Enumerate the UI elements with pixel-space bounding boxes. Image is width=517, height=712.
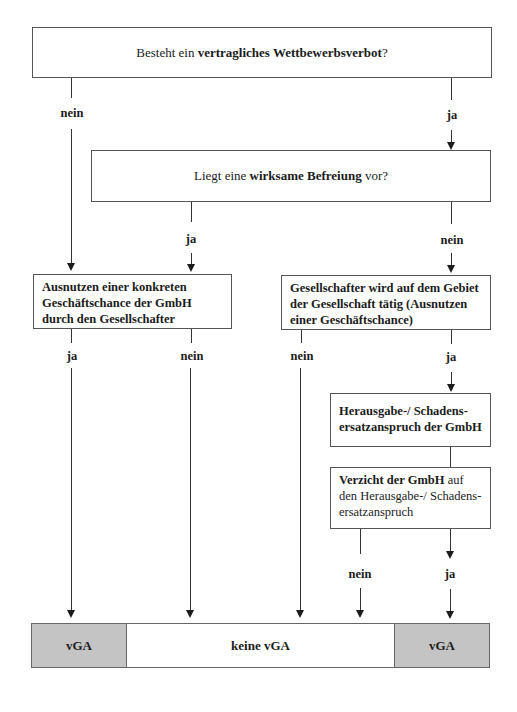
question-verzicht: Verzicht der GmbH auf den Herausgabe-/ S…: [330, 467, 491, 529]
label-q1-nein: nein: [61, 106, 84, 121]
connector-line: [450, 529, 451, 551]
connector-line: [451, 330, 452, 344]
q6-text-bold: Verzicht der GmbH: [339, 473, 445, 487]
connector-line: [301, 330, 302, 343]
arrow-down-icon: [296, 610, 304, 618]
connector-line: [451, 253, 452, 265]
connector-line: [190, 368, 191, 611]
q1-text-post: ?: [382, 45, 388, 60]
question-gesellschafter-taetig: Gesellschafter wird auf dem Gebiet der G…: [281, 275, 491, 330]
outcome-keine-vga: keine vGA: [126, 623, 395, 668]
connector-line: [191, 202, 192, 222]
arrow-down-icon: [67, 610, 75, 618]
arrow-down-icon: [446, 551, 454, 559]
label-q2-nein: nein: [441, 233, 464, 248]
connector-line: [450, 447, 451, 467]
q2-text-bold: wirksame Befreiung: [250, 168, 362, 183]
arrow-down-icon: [187, 264, 195, 272]
outcome-vga-left: vGA: [31, 623, 127, 668]
q2-text-pre: Liegt eine: [194, 168, 250, 183]
connector-line: [191, 329, 192, 343]
connector-line: [300, 368, 301, 611]
claim-herausgabe-schadensersatz: Herausgabe-/ Schadens-ersatzanspruch der…: [330, 393, 491, 447]
question-befreiung: Liegt eine wirksame Befreiung vor?: [91, 150, 491, 202]
connector-line: [71, 368, 72, 611]
label-q1-ja: ja: [447, 108, 457, 123]
label-q2-ja: ja: [186, 232, 196, 247]
arrow-down-icon: [356, 610, 364, 618]
outcome-vga-right: vGA: [394, 623, 490, 668]
connector-line: [71, 129, 72, 263]
arrow-down-icon: [186, 610, 194, 618]
connector-line: [360, 529, 361, 554]
question-wettbewerbsverbot: Besteht ein vertragliches Wettbewerbsver…: [32, 27, 492, 78]
label-q4-nein: nein: [291, 349, 314, 364]
arrow-down-icon: [446, 611, 454, 619]
q1-text-bold: vertragliches Wettbewerbsverbot: [198, 45, 382, 60]
arrow-down-icon: [447, 384, 455, 392]
q1-text-pre: Besteht ein: [136, 45, 197, 60]
connector-line: [71, 78, 72, 98]
arrow-down-icon: [447, 265, 455, 273]
label-q6-nein: nein: [349, 567, 372, 582]
connector-line: [360, 588, 361, 610]
connector-line: [191, 253, 192, 264]
connector-line: [71, 329, 72, 343]
arrow-down-icon: [67, 263, 75, 271]
q2-text-post: vor?: [362, 168, 388, 183]
connector-line: [451, 372, 452, 384]
connector-line: [451, 78, 452, 100]
label-q3-ja: ja: [67, 349, 77, 364]
label-q4-ja: ja: [446, 350, 456, 365]
label-q6-ja: ja: [445, 567, 455, 582]
label-q3-nein: nein: [181, 349, 204, 364]
connector-line: [450, 589, 451, 611]
arrow-down-icon: [447, 142, 455, 150]
connector-line: [451, 202, 452, 224]
connector-line: [451, 130, 452, 142]
question-geschaeftschance: Ausnutzen einer konkreten Geschäftschanc…: [33, 274, 232, 329]
